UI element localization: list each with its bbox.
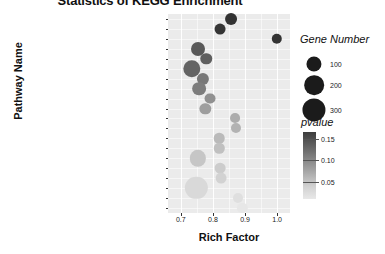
data-point	[271, 34, 281, 44]
data-point	[192, 82, 206, 96]
data-point	[233, 193, 243, 203]
data-point	[214, 133, 225, 144]
plot-panel	[168, 14, 290, 213]
kegg-enrichment-bubble-chart: Statistics of KEGG Enrichment Pathway Na…	[0, 0, 385, 254]
data-point	[189, 150, 205, 166]
x-axis-title: Rich Factor	[168, 231, 290, 243]
data-point	[231, 123, 241, 133]
size-legend-label: 300	[330, 107, 342, 114]
colorbar-tick-label: 0.05	[321, 179, 335, 186]
data-point	[214, 143, 224, 153]
size-legend-dot	[306, 56, 321, 71]
data-point	[215, 23, 226, 34]
x-axis-tick-label: 0.7	[166, 216, 196, 223]
colorbar-tick-label: 0.15	[321, 135, 335, 142]
data-point	[230, 114, 240, 124]
x-axis-tick-label: 0.9	[230, 216, 260, 223]
data-point	[200, 53, 211, 64]
data-point	[215, 173, 226, 184]
size-legend-title: Gene Number	[300, 33, 369, 45]
colorbar-tick-label: 0.10	[321, 157, 335, 164]
data-point	[225, 13, 237, 25]
data-point	[185, 177, 207, 199]
size-legend-label: 100	[330, 61, 342, 68]
color-legend-title: pvalue	[301, 116, 333, 128]
y-axis-title: Pathway Name	[12, 26, 24, 136]
x-axis-tick-label: 0.8	[198, 216, 228, 223]
x-axis-tick-label: 1.0	[262, 216, 292, 223]
chart-title: Statistics of KEGG Enrichment	[0, 0, 300, 8]
size-legend-label: 200	[330, 82, 342, 89]
pvalue-colorbar	[303, 132, 316, 199]
data-point	[200, 103, 211, 114]
size-legend-dot	[304, 75, 324, 95]
